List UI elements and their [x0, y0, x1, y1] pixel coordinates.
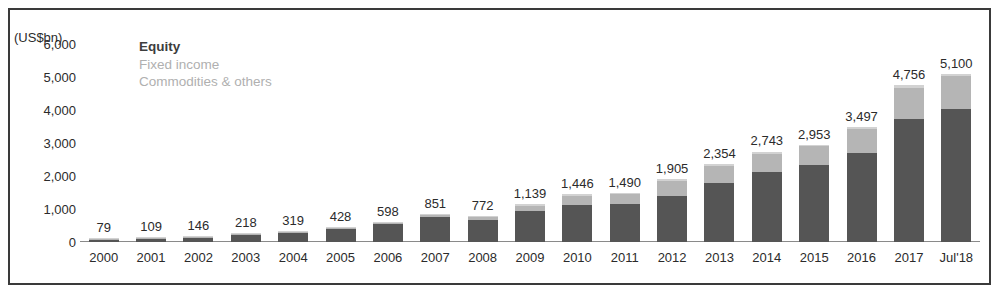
bar-value-label: 3,497 [845, 109, 878, 124]
bar-segment-fixed-income [941, 76, 971, 109]
bar-value-label: 772 [472, 198, 494, 213]
bar-stack [326, 227, 356, 242]
bar-segment-equity [326, 229, 356, 242]
bar-segment-fixed-income [894, 88, 924, 119]
bar-segment-fixed-income [752, 154, 782, 172]
x-axis-tick: 2005 [326, 250, 355, 265]
stacked-bar-chart: (US$bn) 01,0002,0003,0004,0005,0006,000 … [0, 0, 999, 293]
bar-segment-fixed-income [657, 181, 687, 197]
x-axis-tick: 2013 [705, 250, 734, 265]
bar-segment-equity [183, 238, 213, 242]
bar-stack [136, 237, 166, 242]
bar-group[interactable]: 851 [420, 214, 450, 242]
bar-group[interactable]: 2,354 [704, 164, 734, 242]
bar-stack [610, 193, 640, 242]
bar-stack [183, 236, 213, 242]
bar-value-label: 5,100 [940, 56, 973, 71]
bar-group[interactable]: 2,743 [752, 151, 782, 242]
x-axis-tick: 2006 [373, 250, 402, 265]
bar-group[interactable]: 1,139 [515, 204, 545, 242]
bar-segment-equity [468, 220, 498, 242]
bar-group[interactable]: 1,446 [562, 194, 592, 242]
bar-group[interactable]: 2,953 [799, 145, 829, 242]
y-axis-tick: 6,000 [43, 37, 76, 52]
x-axis-tick: 2008 [468, 250, 497, 265]
bar-group[interactable]: 5,100 [941, 74, 971, 242]
bar-stack [704, 164, 734, 242]
bar-stack [894, 85, 924, 242]
x-axis-tick: 2015 [800, 250, 829, 265]
bar-group[interactable]: 109 [136, 237, 166, 242]
bar-segment-equity [136, 239, 166, 242]
x-axis-tick: Jul'18 [940, 250, 974, 265]
bar-value-label: 851 [424, 196, 446, 211]
bar-group[interactable]: 1,905 [657, 179, 687, 242]
y-axis-tick: 4,000 [43, 103, 76, 118]
bar-value-label: 319 [282, 213, 304, 228]
bar-segment-fixed-income [847, 129, 877, 153]
bar-segment-fixed-income [704, 166, 734, 183]
bar-stack [752, 152, 782, 243]
bar-stack [562, 194, 592, 242]
bar-value-label: 598 [377, 204, 399, 219]
bar-value-label: 2,953 [798, 127, 831, 142]
bar-value-label: 4,756 [893, 67, 926, 82]
bar-group[interactable]: 218 [231, 233, 261, 242]
y-axis-tick: 2,000 [43, 169, 76, 184]
bar-group[interactable]: 79 [89, 238, 119, 242]
bar-stack [231, 233, 261, 242]
bar-value-label: 2,743 [751, 133, 784, 148]
bar-group[interactable]: 4,756 [894, 85, 924, 242]
x-axis-tick: 2004 [279, 250, 308, 265]
bar-value-label: 428 [330, 209, 352, 224]
bar-value-label: 79 [96, 220, 110, 235]
bar-stack [278, 231, 308, 243]
bar-group[interactable]: 1,490 [610, 193, 640, 242]
bar-segment-equity [420, 217, 450, 242]
bar-value-label: 1,139 [514, 186, 547, 201]
y-axis-tick: 3,000 [43, 136, 76, 151]
bar-group[interactable]: 146 [183, 236, 213, 242]
bar-group[interactable]: 319 [278, 231, 308, 243]
bar-stack [515, 204, 545, 242]
bar-segment-equity [799, 165, 829, 242]
x-axis-tick: 2002 [184, 250, 213, 265]
bar-value-label: 1,446 [561, 176, 594, 191]
bar-segment-equity [373, 224, 403, 242]
x-axis-tick: 2011 [611, 250, 639, 265]
bar-value-label: 2,354 [703, 146, 736, 161]
bar-segment-equity [610, 204, 640, 242]
bar-group[interactable]: 428 [326, 227, 356, 242]
x-axis-tick: 2016 [847, 250, 876, 265]
x-axis-tick: 2001 [137, 250, 166, 265]
bar-segment-equity [278, 233, 308, 243]
bar-segment-equity [752, 172, 782, 242]
bar-segment-equity [231, 235, 261, 242]
bar-segment-fixed-income [610, 194, 640, 204]
bar-stack [847, 127, 877, 242]
bar-value-label: 218 [235, 215, 257, 230]
y-axis-tick: 0 [69, 235, 76, 250]
bar-value-label: 146 [188, 218, 210, 233]
bar-stack [657, 179, 687, 242]
bar-stack [89, 238, 119, 242]
x-axis-tick: 2014 [752, 250, 781, 265]
bar-group[interactable]: 3,497 [847, 127, 877, 242]
bar-segment-equity [657, 196, 687, 242]
x-axis-tick: 2010 [563, 250, 592, 265]
bar-stack [941, 74, 971, 242]
bar-group[interactable]: 772 [468, 216, 498, 242]
x-axis-tick: 2017 [894, 250, 923, 265]
bar-segment-equity [847, 153, 877, 242]
bar-stack [799, 145, 829, 242]
bar-stack [468, 216, 498, 242]
y-axis-tick: 1,000 [43, 202, 76, 217]
y-axis-tick: 5,000 [43, 70, 76, 85]
bar-segment-fixed-income [799, 146, 829, 165]
bar-group[interactable]: 598 [373, 222, 403, 242]
x-axis-tick: 2007 [421, 250, 450, 265]
bar-segment-equity [704, 183, 734, 242]
bar-stack [373, 222, 403, 242]
y-axis: 01,0002,0003,0004,0005,0006,000 [14, 44, 76, 244]
x-axis-tick: 2000 [89, 250, 118, 265]
